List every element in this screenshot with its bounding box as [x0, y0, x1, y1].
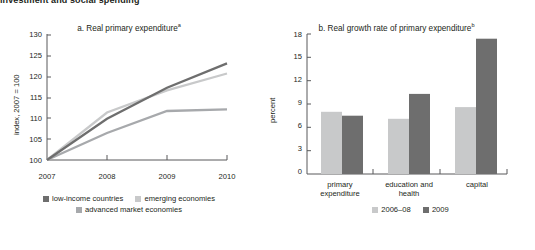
- panel-b-ytick-15: 15: [278, 53, 302, 61]
- panel-a-title-superscript: a: [178, 22, 181, 28]
- panel-b-ytick-9: 9: [278, 99, 302, 107]
- panel-a-ytick-130: 130: [14, 31, 42, 39]
- panel-a-plot-area: [47, 34, 227, 166]
- panel-b-svg: [307, 34, 507, 174]
- panel-b-ytick-3: 3: [278, 145, 302, 153]
- panel-b-title-superscript: b: [471, 22, 474, 28]
- panel-a-line-low-income-countries: [47, 63, 227, 160]
- panel-a-svg: [47, 34, 227, 166]
- panel-b-legend: 2006–08 2009: [272, 203, 535, 215]
- panel-b-bar-capital-2009[interactable]: [476, 39, 497, 174]
- panel-b-legend-label-0: 2006–08: [381, 205, 411, 214]
- panel-b-y-tickmarks: [307, 34, 311, 151]
- panel-b-ytick-6: 6: [278, 122, 302, 130]
- panel-b-bar-education-and-health-2009[interactable]: [409, 94, 430, 174]
- panel-b-legend-item-2006-08[interactable]: 2006–08: [372, 204, 411, 215]
- panel-a-x-tickmarks: [107, 155, 227, 160]
- panel-b-y-axis-label: percent: [268, 98, 277, 123]
- panel-a-y-tickmarks: [47, 35, 51, 139]
- panel-b-xtick-education-and-health: education and health: [370, 180, 448, 198]
- panel-b-xtick-capital: capital: [446, 180, 508, 189]
- panel-a-line-advanced-market-economies: [47, 109, 227, 160]
- panel-a-legend-label-2: advanced market economies: [85, 205, 182, 214]
- panel-b-bar-education-and-health-2006-08[interactable]: [388, 119, 409, 174]
- chart-panel-b: b. Real growth rate of primary expenditu…: [258, 20, 535, 235]
- panel-a-ytick-115: 115: [14, 94, 42, 102]
- panel-b-plot-area: [307, 34, 507, 174]
- panel-b-legend-label-1: 2009: [432, 205, 449, 214]
- panel-b-ytick-18: 18: [278, 31, 302, 39]
- panel-b-title-text: b. Real growth rate of primary expenditu…: [318, 24, 471, 33]
- panel-a-xtick-2007: 2007: [27, 172, 67, 181]
- panel-b-legend-item-2009[interactable]: 2009: [423, 204, 449, 215]
- legend-swatch-icon: [76, 207, 82, 213]
- legend-swatch-icon: [423, 207, 429, 213]
- panel-a-ytick-125: 125: [14, 52, 42, 60]
- legend-swatch-icon: [135, 196, 141, 202]
- panel-b-bar-primary-expenditure-2009[interactable]: [342, 116, 363, 174]
- chart-panel-a: a. Real primary expenditurea index, 2007…: [0, 20, 258, 235]
- panel-a-xtick-2009: 2009: [147, 172, 187, 181]
- panel-a-legend-label-1: emerging economies: [144, 194, 215, 203]
- panel-b-ytick-12: 12: [278, 76, 302, 84]
- panel-a-legend-item-low-income-countries[interactable]: low-income countries: [43, 193, 123, 204]
- panel-a-ytick-120: 120: [14, 73, 42, 81]
- panel-a-ytick-100: 100: [14, 157, 42, 165]
- panel-a-ytick-105: 105: [14, 136, 42, 144]
- panel-b-ytick-0: 0: [278, 168, 302, 176]
- panel-b-xtick-primary-expenditure: primary expenditure: [306, 180, 374, 198]
- panel-a-legend: low-income countries emerging economies …: [0, 192, 258, 215]
- cut-off-page-header: investment and social spending: [0, 0, 535, 7]
- cut-off-header-text: investment and social spending: [0, 0, 535, 5]
- panel-a-legend-label-0: low-income countries: [52, 194, 123, 203]
- panel-b-legend-row-1: 2006–08 2009: [272, 203, 535, 215]
- panel-a-ytick-110: 110: [14, 115, 42, 123]
- panel-a-xtick-2008: 2008: [87, 172, 127, 181]
- panel-a-xtick-2010: 2010: [207, 172, 247, 181]
- legend-swatch-icon: [372, 207, 378, 213]
- panel-a-y-axis-label: index, 2007 = 100: [12, 74, 21, 135]
- panel-a-legend-item-emerging-economies[interactable]: emerging economies: [135, 193, 215, 204]
- panel-a-legend-row-2: advanced market economies: [0, 204, 258, 216]
- panel-a-legend-item-advanced-market-economies[interactable]: advanced market economies: [76, 204, 182, 215]
- panel-b-bar-primary-expenditure-2006-08[interactable]: [321, 112, 342, 174]
- panel-b-bar-capital-2006-08[interactable]: [455, 107, 476, 174]
- panel-a-title-text: a. Real primary expenditure: [77, 24, 178, 33]
- panel-a-legend-row-1: low-income countries emerging economies: [0, 192, 258, 204]
- legend-swatch-icon: [43, 196, 49, 202]
